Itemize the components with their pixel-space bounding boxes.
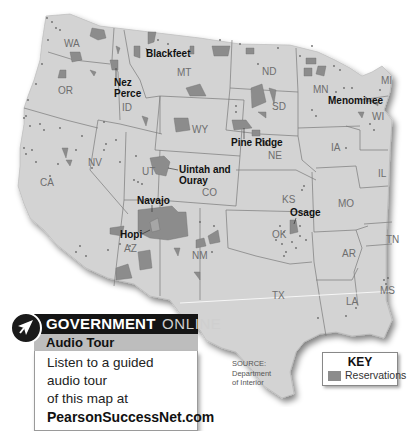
online-title: ONLINE — [162, 315, 221, 332]
state-label-or: OR — [58, 85, 73, 96]
reservations-swatch — [328, 371, 341, 381]
state-label-mn: MN — [313, 84, 329, 95]
source-label: SOURCE: — [232, 359, 271, 369]
state-label-tn: TN — [386, 234, 399, 245]
map-key: KEY Reservations — [322, 352, 398, 386]
source-line-3: of Interior — [232, 378, 271, 388]
state-label-ne: NE — [268, 150, 282, 161]
audio-tour-subtitle: Audio Tour — [34, 334, 198, 351]
state-label-id: ID — [122, 102, 132, 113]
state-label-wa: WA — [64, 38, 80, 49]
audio-tour-text-2: of this map at — [47, 390, 187, 408]
state-label-co: CO — [202, 187, 217, 198]
pearson-url-link[interactable]: PearsonSuccessNet.com — [47, 408, 187, 426]
government-title: GOVERNMENT — [46, 315, 156, 332]
state-label-mi: MI — [381, 75, 392, 86]
state-label-ms: MS — [380, 285, 395, 296]
state-label-ks: KS — [282, 194, 296, 205]
state-label-ca: CA — [40, 177, 54, 188]
state-label-nv: NV — [88, 157, 102, 168]
source-note: SOURCE: Department of Interior — [232, 359, 271, 388]
reservation-label-perce: Perce — [114, 88, 142, 99]
reservation-label-pine-ridge: Pine Ridge — [231, 137, 283, 148]
audio-tour-body: Listen to a guided audio tour of this ma… — [34, 351, 198, 431]
reservation-label-osage: Osage — [290, 207, 321, 218]
state-label-nd: ND — [262, 66, 276, 77]
state-label-mo: MO — [338, 198, 354, 209]
state-label-mt: MT — [177, 67, 191, 78]
arrow-cursor-icon — [10, 312, 42, 344]
state-label-wy: WY — [192, 124, 208, 135]
state-label-tx: TX — [272, 290, 285, 301]
state-label-la: LA — [346, 296, 359, 307]
state-label-ia: IA — [331, 142, 341, 153]
state-label-sd: SD — [272, 101, 286, 112]
reservation-label-navajo: Navajo — [137, 195, 170, 206]
reservation-label-hopi: Hopi — [120, 229, 142, 240]
reservation-label-blackfeet: Blackfeet — [146, 48, 191, 59]
state-label-il: IL — [378, 168, 387, 179]
state-label-ok: OK — [272, 229, 287, 240]
reservation-label-nez: Nez — [114, 77, 132, 88]
audio-tour-text-1: Listen to a guided audio tour — [47, 354, 187, 390]
government-online-callout: GOVERNMENT ONLINE Audio Tour Listen to a… — [10, 314, 198, 431]
key-title: KEY — [323, 355, 397, 369]
state-label-nm: NM — [192, 250, 208, 261]
reservation-label-ouray: Ouray — [179, 175, 208, 186]
reservation-label-uintah: Uintah and — [179, 164, 231, 175]
state-label-az: AZ — [124, 243, 137, 254]
government-online-header: GOVERNMENT ONLINE — [34, 314, 198, 334]
state-label-ar: AR — [342, 248, 356, 259]
state-label-ut: UT — [142, 166, 155, 177]
state-label-wi: WI — [372, 111, 384, 122]
source-line-2: Department — [232, 369, 271, 379]
reservation-label-menominee: Menominee — [328, 95, 383, 106]
key-label-reservations: Reservations — [345, 369, 406, 381]
